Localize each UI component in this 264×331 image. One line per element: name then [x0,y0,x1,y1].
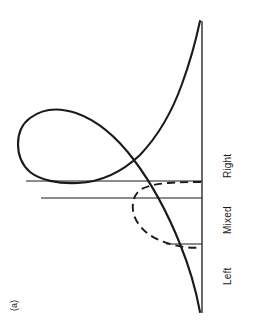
axis-tick-label-right: Right [222,154,233,178]
figure-panel: Right Mixed Left (a) [0,0,264,331]
solid-distribution-curve [18,21,200,312]
panel-label: (a) [9,300,19,311]
axis-tick-label-mixed: Mixed [222,206,233,234]
axis-tick-label-left: Left [222,268,233,285]
